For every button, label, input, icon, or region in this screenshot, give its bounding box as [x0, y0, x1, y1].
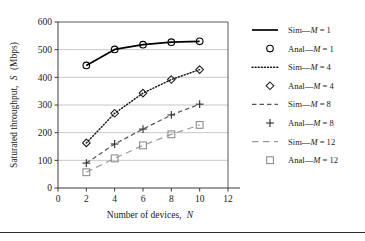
y-tick-label-300: 300 — [38, 100, 53, 110]
x-tick-label-4: 4 — [112, 194, 117, 204]
x-tick-label-8: 8 — [169, 194, 174, 204]
x-tick-label-6: 6 — [141, 194, 146, 204]
legend-label: Sim—M= 4 — [288, 62, 332, 72]
y-tick-label-400: 400 — [38, 73, 53, 83]
y-tick-label-200: 200 — [38, 128, 53, 138]
y-axis-title-text: Saturated throughput, — [9, 86, 19, 168]
x-tick-label-0: 0 — [56, 194, 61, 204]
y-tick-label-500: 500 — [38, 45, 53, 55]
y-axis-title-symbol: S — [9, 75, 19, 80]
legend-label: Sim—M= 12 — [288, 137, 335, 147]
legend-label: Anal—M= 1 — [288, 44, 334, 54]
legend-label: Anal—M= 4 — [288, 81, 334, 91]
x-tick-label-12: 12 — [223, 194, 233, 204]
x-tick-label-10: 10 — [195, 194, 205, 204]
y-axis-title-units: (Mbps) — [9, 42, 20, 70]
figure-container: 0100200300400500600 024681012 Saturated … — [0, 0, 365, 241]
y-axis-title: Saturated throughput, S (Mbps) — [9, 42, 20, 168]
legend-label: Anal—M= 12 — [288, 155, 338, 165]
y-tick-label-100: 100 — [38, 156, 53, 166]
x-axis-title: Number of devices, N — [107, 210, 194, 220]
throughput-line-chart: 0100200300400500600 024681012 Saturated … — [0, 0, 365, 241]
legend-label: Anal—M= 8 — [288, 118, 334, 128]
y-tick-label-600: 600 — [38, 17, 53, 27]
x-tick-label-2: 2 — [84, 194, 89, 204]
page-footer-rule — [0, 232, 365, 233]
legend-label: Sim—M= 8 — [288, 99, 331, 109]
y-tick-label-0: 0 — [47, 183, 52, 193]
x-axis-title-text: Number of devices, — [107, 210, 182, 220]
x-axis-title-symbol: N — [186, 210, 194, 220]
svg-text:Number of devices, N: Number of devices, N — [107, 210, 194, 220]
legend-label: Sim—M= 1 — [288, 25, 331, 35]
svg-text:Saturated throughput,: Saturated throughput, S (Mbps) — [9, 42, 20, 168]
